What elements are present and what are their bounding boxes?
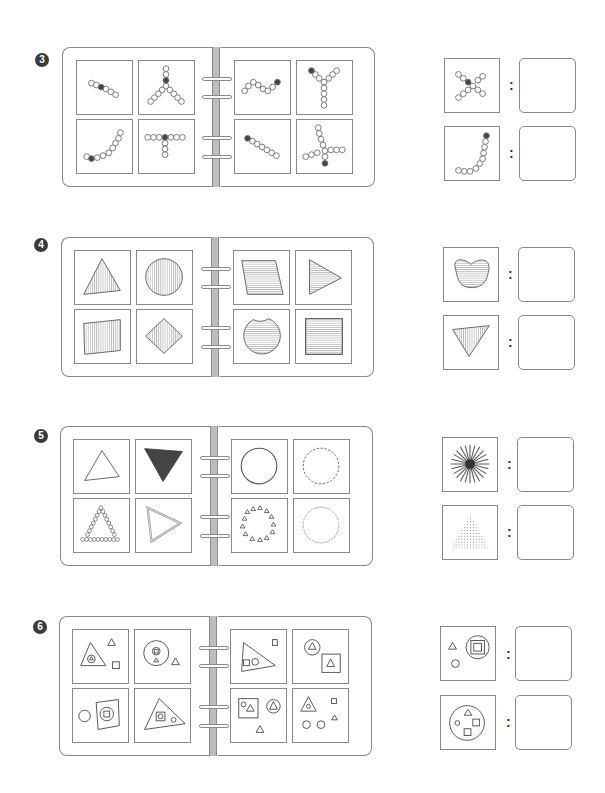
picture-cell — [135, 439, 192, 494]
nested-shapes-icon — [231, 689, 286, 742]
quadrilateral-icon — [75, 310, 130, 363]
binder-book — [62, 47, 375, 187]
colon-separator: : — [506, 647, 510, 661]
section-5: 5 — [0, 380, 605, 570]
binder-ring — [200, 515, 230, 519]
outline-triangle-icon — [74, 440, 129, 493]
binder-ring — [199, 705, 229, 709]
binder-book — [59, 616, 372, 756]
binder-ring — [201, 345, 231, 349]
picture-cell — [231, 439, 288, 494]
answer-box[interactable] — [518, 247, 575, 302]
picture-cell — [230, 688, 287, 743]
picture-cell — [74, 309, 131, 364]
nested-shapes-icon — [441, 696, 495, 749]
book-spine — [211, 237, 219, 377]
question-stimulus — [444, 58, 500, 113]
section-number-badge: 3 — [35, 53, 49, 67]
picture-cell — [134, 629, 191, 684]
binder-ring — [199, 646, 229, 650]
question-stimulus — [440, 695, 496, 750]
colon-separator: : — [509, 78, 513, 92]
section-number-badge: 4 — [34, 238, 48, 252]
picture-cell — [293, 498, 350, 553]
answer-box[interactable] — [519, 126, 576, 181]
triangle-icon — [296, 251, 351, 304]
binder-ring — [200, 474, 230, 478]
picture-cell — [233, 309, 290, 364]
binder-ring — [202, 136, 232, 140]
picture-cell — [234, 119, 291, 174]
triangle-ring-icon — [232, 499, 287, 552]
book-spine — [210, 426, 218, 566]
picture-cell — [72, 688, 129, 743]
picture-cell — [231, 498, 288, 553]
question-stimulus — [443, 247, 499, 302]
question-stimulus — [444, 126, 500, 181]
picture-cell — [138, 119, 195, 174]
bead-chain-icon — [297, 61, 352, 114]
dashed-circle-icon — [294, 440, 349, 493]
notched-circle-icon — [234, 310, 289, 363]
picture-cell — [138, 60, 195, 115]
binder-ring — [200, 534, 230, 538]
picture-cell — [76, 119, 133, 174]
answer-box[interactable] — [519, 58, 576, 113]
nested-shapes-icon — [73, 630, 128, 683]
bead-chain-icon — [297, 120, 352, 173]
picture-cell — [74, 250, 131, 305]
bead-chain-icon — [235, 61, 290, 114]
double-line-triangle-icon — [136, 499, 191, 552]
kidney-shape-icon — [444, 248, 498, 301]
question-stimulus — [440, 626, 496, 681]
nested-shapes-icon — [231, 630, 286, 683]
picture-cell — [136, 250, 193, 305]
picture-cell — [72, 629, 129, 684]
question-stimulus — [443, 315, 499, 370]
bead-chain-icon — [445, 127, 499, 180]
dot-triangle-icon — [443, 506, 497, 559]
binder-ring — [201, 285, 231, 289]
filled-triangle-icon — [136, 440, 191, 493]
picture-cell — [134, 688, 191, 743]
nested-shapes-icon — [293, 630, 348, 683]
bead-chain-icon — [235, 120, 290, 173]
bead-chain-icon — [139, 61, 194, 114]
picture-cell — [295, 309, 352, 364]
section-3: 3 — [0, 0, 605, 190]
picture-cell — [233, 250, 290, 305]
colon-separator: : — [506, 715, 510, 729]
picture-cell — [292, 629, 349, 684]
bead-chain-icon — [77, 61, 132, 114]
picture-cell — [230, 629, 287, 684]
question-stimulus — [442, 437, 498, 492]
section-number-badge: 6 — [33, 620, 47, 634]
section-6: 6 — [0, 570, 605, 760]
bead-triangle-icon — [74, 499, 129, 552]
circle-icon — [137, 251, 192, 304]
bead-chain-icon — [77, 120, 132, 173]
picture-cell — [234, 60, 291, 115]
binder-ring — [202, 77, 232, 81]
answer-box[interactable] — [517, 437, 574, 492]
answer-box[interactable] — [515, 695, 572, 750]
picture-cell — [293, 439, 350, 494]
dotted-circle-icon — [294, 499, 349, 552]
parallelogram-icon — [234, 251, 289, 304]
answer-box[interactable] — [518, 315, 575, 370]
answer-box[interactable] — [517, 505, 574, 560]
answer-box[interactable] — [515, 626, 572, 681]
book-spine — [212, 47, 220, 187]
section-4: 4 : : — [0, 190, 605, 380]
colon-separator: : — [507, 457, 511, 471]
nested-shapes-icon — [135, 630, 190, 683]
picture-cell — [73, 439, 130, 494]
binder-ring — [199, 664, 229, 668]
colon-separator: : — [508, 335, 512, 349]
binder-ring — [201, 267, 231, 271]
picture-cell — [296, 119, 353, 174]
picture-cell — [76, 60, 133, 115]
solid-circle-icon — [232, 440, 287, 493]
picture-cell — [136, 309, 193, 364]
picture-cell — [292, 688, 349, 743]
